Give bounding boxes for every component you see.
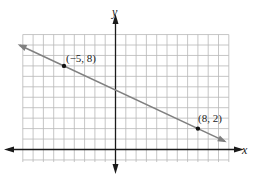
point-label-1: (−5, 8) [66, 53, 96, 64]
coordinate-plane [0, 0, 254, 176]
x-axis-label: x [242, 144, 247, 156]
point-label-2: (8, 2) [198, 113, 222, 124]
grid-lines [23, 35, 229, 162]
y-axis-label: y [112, 6, 117, 18]
data-line [18, 44, 227, 142]
